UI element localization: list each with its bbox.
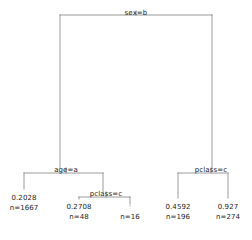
decision-tree-figure: sex=bage=apclass=cpclass=c 0.2028n=16670… [0,0,252,240]
tree-leaf-leaf-2: 0.2708n=48 [66,203,91,222]
leaf-count: n=48 [66,213,91,223]
leaf-count: n=1667 [10,204,39,214]
leaf-count: n=196 [165,213,190,223]
tree-node-root: sex=b [125,9,148,18]
tree-leaf-leaf-3: 1n=16 [120,203,140,222]
leaf-value: 0.927 [216,203,240,213]
leaf-value: 0.4592 [165,203,190,213]
tree-node-left-split: age=a [54,166,78,175]
leaf-value: 1 [120,203,140,213]
tree-node-right-split: pclass=c [195,166,227,175]
leaf-count: n=16 [120,213,140,223]
tree-leaf-leaf-1: 0.2028n=1667 [10,194,39,213]
tree-leaf-leaf-4: 0.4592n=196 [165,203,190,222]
leaf-value: 0.2708 [66,203,91,213]
tree-leaf-leaf-5: 0.927n=274 [216,203,240,222]
leaf-value: 0.2028 [10,194,39,204]
tree-node-mid-split: pclass=c [90,190,122,199]
leaf-count: n=274 [216,213,240,223]
edge-group [24,11,228,206]
